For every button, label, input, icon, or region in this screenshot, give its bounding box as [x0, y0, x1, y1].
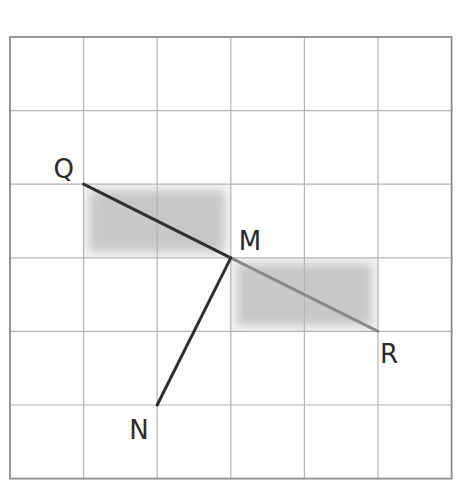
- label-M: M: [239, 226, 261, 256]
- grid-diagram: Q M R N: [0, 0, 459, 500]
- label-N: N: [129, 415, 148, 445]
- label-R: R: [380, 339, 398, 369]
- label-Q: Q: [54, 154, 74, 184]
